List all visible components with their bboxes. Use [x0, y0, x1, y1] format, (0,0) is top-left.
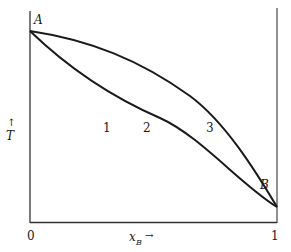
y-axis-label: T — [6, 129, 15, 143]
point-label-a: A — [33, 13, 43, 27]
x-tick-1: 1 — [271, 229, 279, 243]
lower-curve — [30, 31, 277, 207]
phase-diagram: A B 1 2 3 ↑ T 0 1 x B → — [0, 0, 291, 252]
upper-curve — [30, 31, 277, 207]
x-axis-label: x — [129, 230, 136, 244]
point-label-b: B — [259, 178, 269, 192]
region-label-1: 1 — [103, 121, 111, 135]
y-axis-arrow: ↑ — [7, 117, 15, 128]
region-label-2: 2 — [143, 121, 151, 135]
region-label-3: 3 — [206, 121, 214, 135]
x-axis-arrow: → — [145, 230, 154, 241]
x-tick-0: 0 — [27, 229, 35, 243]
x-axis-label-subscript: B — [135, 238, 142, 247]
